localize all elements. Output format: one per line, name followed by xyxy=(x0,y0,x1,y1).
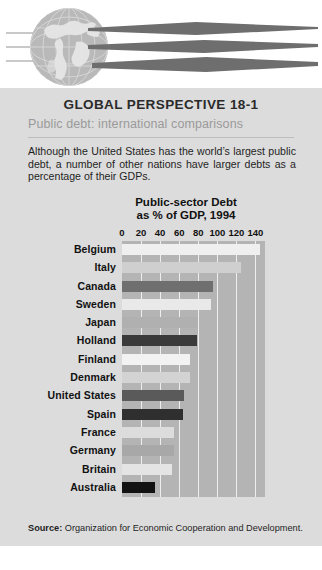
bar-italy xyxy=(122,262,241,273)
bar-denmark xyxy=(122,372,190,383)
bar-row: Finland xyxy=(0,351,322,369)
bar-rows: BelgiumItalyCanadaSwedenJapanHollandFinl… xyxy=(0,241,322,497)
bar-label-finland: Finland xyxy=(0,353,116,365)
bar-britain xyxy=(122,464,172,475)
bar-chart: Public-sector Debt as % of GDP, 1994 020… xyxy=(0,196,322,511)
bar-label-germany: Germany xyxy=(0,444,116,456)
chart-title-line-1: Public-sector Debt xyxy=(86,196,286,209)
bar-row: Australia xyxy=(0,479,322,497)
body-paragraph: Although the United States has the world… xyxy=(28,145,296,183)
bar-row: Spain xyxy=(0,406,322,424)
bar-canada xyxy=(122,281,213,292)
bar-row: Germany xyxy=(0,442,322,460)
x-tick-140: 140 xyxy=(246,227,264,238)
chart-title: Public-sector Debt as % of GDP, 1994 xyxy=(86,196,286,222)
bar-row: Belgium xyxy=(0,241,322,259)
bar-spain xyxy=(122,409,183,420)
bar-label-denmark: Denmark xyxy=(0,371,116,383)
bar-united-states xyxy=(122,390,184,401)
global-perspective-figure: GLOBAL PERSPECTIVE 18-1 Public debt: int… xyxy=(0,0,322,570)
bar-label-italy: Italy xyxy=(0,261,116,273)
page-subtitle: Public debt: international comparisons xyxy=(28,117,308,131)
source-text: Organization for Economic Cooperation an… xyxy=(65,523,303,533)
logo-bands xyxy=(86,14,318,80)
bar-row: United States xyxy=(0,387,322,405)
bar-row: Holland xyxy=(0,332,322,350)
bar-label-australia: Australia xyxy=(0,481,116,493)
bar-row: Italy xyxy=(0,259,322,277)
bar-label-canada: Canada xyxy=(0,280,116,292)
x-tick-20: 20 xyxy=(132,227,150,238)
x-axis-ticks: 020406080100120140 xyxy=(112,227,282,239)
x-tick-80: 80 xyxy=(189,227,207,238)
source-label: Source: xyxy=(28,523,62,533)
x-tick-100: 100 xyxy=(208,227,226,238)
bar-row: France xyxy=(0,424,322,442)
x-tick-60: 60 xyxy=(170,227,188,238)
bar-belgium xyxy=(122,244,260,255)
x-tick-0: 0 xyxy=(113,227,131,238)
bar-germany xyxy=(122,445,174,456)
bar-france xyxy=(122,427,174,438)
bar-japan xyxy=(122,317,198,328)
bar-australia xyxy=(122,482,155,493)
source-note: Source: Organization for Economic Cooper… xyxy=(28,523,304,533)
bar-row: Britain xyxy=(0,461,322,479)
bar-label-united-states: United States xyxy=(0,389,116,401)
tapered-bands-icon xyxy=(86,14,318,80)
bar-label-spain: Spain xyxy=(0,408,116,420)
page-title: GLOBAL PERSPECTIVE 18-1 xyxy=(0,97,322,112)
bar-label-france: France xyxy=(0,426,116,438)
x-tick-120: 120 xyxy=(227,227,245,238)
bar-sweden xyxy=(122,299,211,310)
logo-band xyxy=(0,0,322,88)
x-tick-40: 40 xyxy=(151,227,169,238)
bar-row: Japan xyxy=(0,314,322,332)
bar-label-japan: Japan xyxy=(0,316,116,328)
bar-finland xyxy=(122,354,190,365)
bar-label-holland: Holland xyxy=(0,334,116,346)
divider xyxy=(28,137,294,138)
bar-label-britain: Britain xyxy=(0,463,116,475)
bar-label-belgium: Belgium xyxy=(0,243,116,255)
chart-title-line-2: as % of GDP, 1994 xyxy=(86,209,286,222)
bar-label-sweden: Sweden xyxy=(0,298,116,310)
bar-holland xyxy=(122,335,197,346)
bar-row: Sweden xyxy=(0,296,322,314)
bar-row: Denmark xyxy=(0,369,322,387)
bar-row: Canada xyxy=(0,278,322,296)
